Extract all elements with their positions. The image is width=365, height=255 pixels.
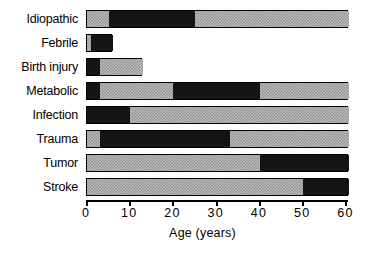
bar-segment-black — [87, 83, 100, 99]
bar-track — [86, 130, 348, 148]
x-tick-label-60: 60 — [325, 206, 365, 220]
bar-segment-gray — [130, 107, 349, 123]
x-tick-label-0: 0 — [66, 206, 106, 220]
bar-segment-gray — [87, 155, 260, 171]
bar-track — [86, 58, 142, 76]
bar-segment-black — [173, 83, 259, 99]
category-label-febrile: Febrile — [41, 37, 78, 49]
bar-segment-gray — [230, 131, 349, 147]
bar-segment-black — [303, 179, 349, 195]
category-label-trauma: Trauma — [37, 133, 78, 145]
bar-track — [86, 106, 348, 124]
bar-segment-gray — [87, 131, 100, 147]
category-label-birth-injury: Birth injury — [21, 61, 78, 73]
x-tick-label-20: 20 — [152, 206, 192, 220]
x-tick-label-10: 10 — [109, 206, 149, 220]
bar-segment-black — [260, 155, 349, 171]
x-axis-title: Age (years) — [0, 226, 365, 240]
bar-segment-black — [91, 35, 113, 51]
plot-area — [86, 8, 348, 200]
bar-chart: Idiopathic Febrile Birth injury Metaboli… — [0, 0, 365, 255]
bar-segment-gray — [100, 83, 173, 99]
category-axis-labels: Idiopathic Febrile Birth injury Metaboli… — [0, 8, 82, 200]
category-label-infection: Infection — [33, 109, 78, 121]
bar-track — [86, 178, 348, 196]
bar-track — [86, 10, 348, 28]
bar-segment-gray — [260, 83, 349, 99]
bar-segment-gray — [195, 11, 349, 27]
bar-segment-black — [87, 59, 100, 75]
bar-track — [86, 82, 348, 100]
category-label-metabolic: Metabolic — [26, 85, 78, 97]
category-label-idiopathic: Idiopathic — [26, 13, 78, 25]
bar-segment-black — [109, 11, 195, 27]
category-label-stroke: Stroke — [43, 181, 78, 193]
x-tick-label-30: 30 — [196, 206, 236, 220]
bar-segment-black — [87, 107, 130, 123]
bar-segment-gray — [87, 11, 109, 27]
bar-track — [86, 154, 348, 172]
bar-segment-gray — [87, 179, 303, 195]
x-tick-label-40: 40 — [239, 206, 279, 220]
x-tick-label-50: 50 — [282, 206, 322, 220]
category-label-tumor: Tumor — [43, 157, 78, 169]
x-axis-title-text: Age (years) — [129, 226, 236, 240]
bar-segment-gray — [100, 59, 143, 75]
bar-segment-black — [100, 131, 230, 147]
bar-track — [86, 34, 112, 52]
